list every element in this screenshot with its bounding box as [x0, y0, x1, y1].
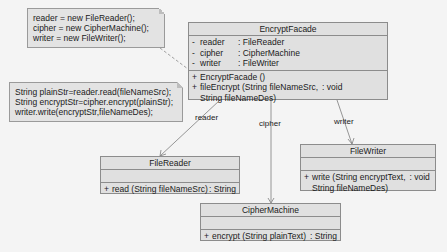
- attribute-row: - cipher : CipherMachine: [192, 48, 384, 59]
- file-encrypt-note: String plainStr=reader.read(fileNameSrc)…: [9, 82, 183, 122]
- note-line: writer.write(encryptStr,fileNameDes);: [15, 107, 177, 117]
- class-name: CipherMachine: [201, 204, 340, 217]
- visibility: +: [304, 172, 312, 183]
- operation-signature: EncryptFacade (): [200, 72, 265, 83]
- writer-role-label: writer: [334, 117, 354, 126]
- operation-continuation: String fileNameDes): [192, 93, 384, 104]
- visibility: -: [192, 58, 200, 69]
- attribute-name: cipher: [200, 48, 238, 59]
- reader-role-label: reader: [195, 113, 218, 122]
- attributes-section: - reader : FileReader - cipher : CipherM…: [189, 36, 387, 71]
- visibility: -: [192, 37, 200, 48]
- operations-section: + read (String fileNameSrc) : String: [101, 183, 239, 196]
- attribute-row: - writer : FileWriter: [192, 58, 384, 69]
- operation-signature: write (String encryptText,: [312, 172, 406, 183]
- operation-row: + read (String fileNameSrc) : String: [104, 184, 236, 195]
- operation-signature: encrypt (String plainText): [212, 231, 306, 242]
- note-fold-icon: [177, 82, 183, 88]
- operations-section: + encrypt (String plainText) : String: [201, 230, 340, 243]
- attribute-name: writer: [200, 58, 238, 69]
- attributes-section: [201, 217, 340, 230]
- visibility: +: [204, 231, 212, 242]
- constructor-note: reader = new FileReader(); cipher = new …: [27, 8, 165, 48]
- operation-signature: read (String fileNameSrc): [112, 184, 208, 195]
- note-line: reader = new FileReader();: [33, 13, 159, 23]
- operation-return-type: : String: [209, 184, 236, 195]
- operation-return-type: : String: [310, 231, 337, 242]
- note-line: cipher = new CipherMachine();: [33, 23, 159, 33]
- class-cipher-machine[interactable]: CipherMachine + encrypt (String plainTex…: [200, 203, 341, 241]
- operation-row: + EncryptFacade (): [192, 72, 384, 83]
- visibility: -: [192, 48, 200, 59]
- class-name: EncryptFacade: [189, 23, 387, 36]
- class-name: FileReader: [101, 157, 239, 170]
- operation-return-type: : void: [322, 82, 342, 93]
- attributes-section: [101, 170, 239, 183]
- operation-signature-cont: String fileNameDes): [312, 183, 388, 194]
- operation-return-type: : void: [410, 172, 430, 183]
- operation-signature: fileEncrypt (String fileNameSrc,: [200, 82, 318, 93]
- visibility: +: [104, 184, 112, 195]
- class-encrypt-facade[interactable]: EncryptFacade - reader : FileReader - ci…: [188, 22, 388, 100]
- class-file-writer[interactable]: FileWriter + write (String encryptText, …: [300, 144, 436, 191]
- cipher-role-label: cipher: [259, 119, 281, 128]
- attribute-name: reader: [200, 37, 238, 48]
- note1-connector: [160, 48, 188, 69]
- operation-row: + encrypt (String plainText) : String: [204, 231, 337, 242]
- attribute-row: - reader : FileReader: [192, 37, 384, 48]
- class-file-reader[interactable]: FileReader + read (String fileNameSrc) :…: [100, 156, 240, 194]
- operations-section: + write (String encryptText, : void Stri…: [301, 171, 435, 194]
- operation-continuation: String fileNameDes): [304, 183, 432, 194]
- attributes-section: [301, 158, 435, 171]
- class-name: FileWriter: [301, 145, 435, 158]
- visibility: +: [192, 82, 200, 93]
- attribute-type: : CipherMachine: [238, 48, 300, 59]
- operation-row: + fileEncrypt (String fileNameSrc, : voi…: [192, 82, 384, 93]
- operations-section: + EncryptFacade () + fileEncrypt (String…: [189, 71, 387, 105]
- operation-row: + write (String encryptText, : void: [304, 172, 432, 183]
- note-line: writer = new FileWriter();: [33, 33, 159, 43]
- attribute-type: : FileWriter: [238, 58, 279, 69]
- operation-signature-cont: String fileNameDes): [200, 93, 276, 104]
- note-line: String encryptStr=cipher.encrypt(plainSt…: [15, 97, 177, 107]
- attribute-type: : FileReader: [238, 37, 284, 48]
- note-fold-icon: [159, 8, 165, 14]
- note-line: String plainStr=reader.read(fileNameSrc)…: [15, 87, 177, 97]
- visibility: +: [192, 72, 200, 83]
